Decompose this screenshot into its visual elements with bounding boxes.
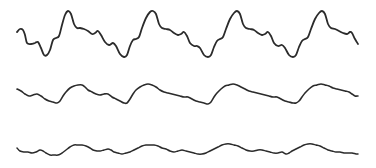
waveform-figure (0, 0, 376, 168)
